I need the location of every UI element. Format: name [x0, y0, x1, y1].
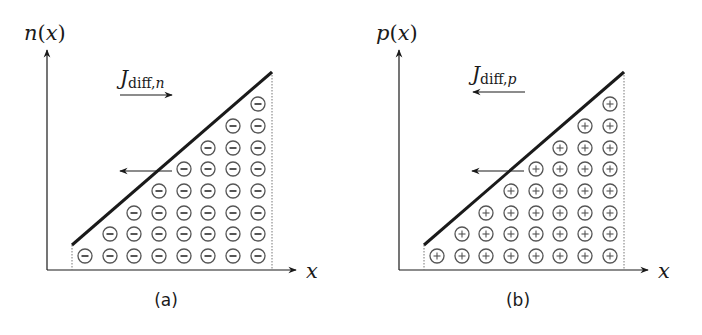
y-axis-label: p(x) [376, 21, 418, 45]
electron-particle-icon [201, 227, 215, 241]
diffusion-figure: n(x) x Jdiff,n (a) p(x) x Jdiff,p (b) [0, 0, 702, 335]
hole-particle-icon [529, 184, 543, 198]
electron-particle-icon [177, 206, 191, 220]
hole-particle-icon [578, 227, 592, 241]
electron-particle-icon [251, 206, 265, 220]
concentration-line [424, 72, 624, 245]
hole-particle-icon [553, 206, 567, 220]
electron-particle-icon [226, 141, 240, 155]
hole-particle-icon [603, 97, 617, 111]
electron-particle-icon [251, 184, 265, 198]
electron-particle-icon [127, 249, 141, 263]
electron-particle-icon [127, 206, 141, 220]
hole-particle-icon [578, 119, 592, 133]
hole-particle-icon [578, 184, 592, 198]
electron-particle-icon [201, 184, 215, 198]
electron-particle-icon [78, 249, 92, 263]
electron-particle-icon [127, 227, 141, 241]
hole-particle-icon [504, 249, 518, 263]
electron-particle-icon [226, 249, 240, 263]
hole-particle-icon [529, 249, 543, 263]
electron-particle-icon [251, 227, 265, 241]
electron-particle-icon [177, 162, 191, 176]
hole-particle-icon [603, 227, 617, 241]
hole-particle-icon [455, 249, 469, 263]
electron-particle-icon [226, 227, 240, 241]
hole-particle-icon [603, 141, 617, 155]
hole-particle-icon [455, 227, 469, 241]
electron-particle-icon [152, 206, 166, 220]
hole-particle-icon [603, 184, 617, 198]
hole-particle-icon [504, 227, 518, 241]
electron-particle-icon [201, 249, 215, 263]
electron-particle-icon [152, 249, 166, 263]
hole-particle-icon [479, 249, 493, 263]
electron-particle-icon [201, 141, 215, 155]
electron-particle-icon [226, 206, 240, 220]
electron-particle-icon [251, 141, 265, 155]
electron-particle-icon [201, 162, 215, 176]
x-axis-label: x [306, 259, 318, 283]
electron-particle-icon [226, 184, 240, 198]
hole-particle-icon [553, 184, 567, 198]
current-label: Jdiff,n [116, 66, 164, 91]
electron-particle-icon [152, 184, 166, 198]
hole-particle-icon [504, 184, 518, 198]
hole-particle-icon [578, 206, 592, 220]
hole-particle-icon [603, 249, 617, 263]
hole-particle-icon [578, 141, 592, 155]
hole-particle-icon [553, 227, 567, 241]
hole-particle-icon [578, 162, 592, 176]
hole-particle-icon [479, 227, 493, 241]
hole-particle-icon [603, 119, 617, 133]
electron-particle-icon [103, 249, 117, 263]
electron-particle-icon [152, 227, 166, 241]
hole-particle-icon [578, 249, 592, 263]
electron-particle-icon [177, 249, 191, 263]
hole-particle-icon [603, 206, 617, 220]
hole-particle-icon [430, 249, 444, 263]
electron-particle-icon [251, 97, 265, 111]
electron-particle-icon [201, 206, 215, 220]
hole-particle-icon [553, 162, 567, 176]
y-axis-label: n(x) [24, 21, 66, 45]
hole-particle-icon [603, 162, 617, 176]
current-label: Jdiff,p [468, 62, 516, 87]
hole-particle-icon [504, 206, 518, 220]
x-axis-label: x [658, 259, 670, 283]
panel-caption: (b) [506, 290, 530, 310]
electron-particle-icon [226, 162, 240, 176]
hole-particle-icon [553, 141, 567, 155]
panel-a-electron-diffusion: n(x) x Jdiff,n (a) [24, 21, 318, 310]
panel-caption: (a) [154, 290, 178, 310]
electron-particles [78, 97, 265, 263]
electron-particle-icon [251, 249, 265, 263]
hole-particle-icon [529, 227, 543, 241]
electron-particle-icon [251, 162, 265, 176]
electron-particle-icon [177, 227, 191, 241]
hole-particles [430, 97, 617, 263]
panel-b-hole-diffusion: p(x) x Jdiff,p (b) [376, 21, 670, 310]
electron-particle-icon [103, 227, 117, 241]
hole-particle-icon [479, 206, 493, 220]
hole-particle-icon [553, 249, 567, 263]
hole-particle-icon [529, 162, 543, 176]
electron-particle-icon [226, 119, 240, 133]
electron-particle-icon [251, 119, 265, 133]
electron-particle-icon [177, 184, 191, 198]
concentration-line [72, 72, 272, 245]
hole-particle-icon [529, 206, 543, 220]
